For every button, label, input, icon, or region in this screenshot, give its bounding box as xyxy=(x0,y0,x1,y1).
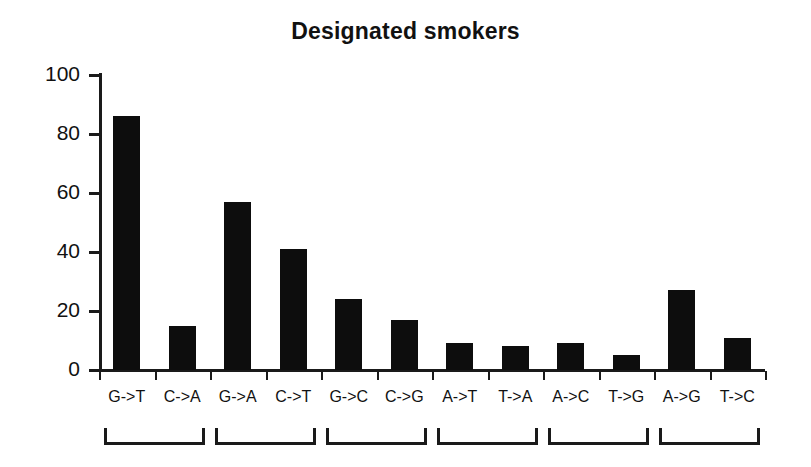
group-bracket xyxy=(215,428,316,445)
y-axis-tick-label: 80 xyxy=(10,121,80,145)
x-axis-label: T->C xyxy=(710,388,766,406)
bars-layer xyxy=(99,75,765,370)
y-axis-tick-label: 40 xyxy=(10,239,80,263)
x-axis-tick xyxy=(765,371,767,380)
x-axis-label: C->G xyxy=(377,388,433,406)
x-axis-tick xyxy=(543,371,545,380)
x-axis-label: T->A xyxy=(488,388,544,406)
y-axis-tick-label: 60 xyxy=(10,180,80,204)
y-axis-tick-label: 0 xyxy=(10,357,80,381)
group-bracket xyxy=(548,428,649,445)
x-axis-tick xyxy=(488,371,490,380)
y-axis-tick-label: 100 xyxy=(10,62,80,86)
group-bracket xyxy=(437,428,538,445)
x-axis-label: A->T xyxy=(432,388,488,406)
bar xyxy=(224,202,251,370)
x-axis-label: C->T xyxy=(266,388,322,406)
x-axis-tick xyxy=(99,371,101,380)
bar xyxy=(724,338,751,370)
bar xyxy=(613,355,640,370)
x-axis-tick xyxy=(710,371,712,380)
x-axis-label: A->G xyxy=(654,388,710,406)
bar xyxy=(335,299,362,370)
y-axis-tick-label: 20 xyxy=(10,298,80,322)
x-axis-label: T->G xyxy=(599,388,655,406)
bar-chart-figure: Designated smokers 020406080100 G->TC->A… xyxy=(0,0,811,467)
x-axis-label: A->C xyxy=(543,388,599,406)
group-bracket xyxy=(326,428,427,445)
x-axis-tick xyxy=(266,371,268,380)
x-axis-tick xyxy=(377,371,379,380)
chart-title: Designated smokers xyxy=(0,18,811,45)
x-axis-label: C->A xyxy=(155,388,211,406)
bar xyxy=(557,343,584,370)
x-axis-label: G->A xyxy=(210,388,266,406)
x-axis-tick xyxy=(155,371,157,380)
x-axis-tick xyxy=(654,371,656,380)
x-axis-tick xyxy=(432,371,434,380)
bar xyxy=(668,290,695,370)
x-axis-label: G->C xyxy=(321,388,377,406)
x-axis-tick xyxy=(321,371,323,380)
x-axis-label: G->T xyxy=(99,388,155,406)
bar xyxy=(446,343,473,370)
x-axis-tick xyxy=(599,371,601,380)
bar xyxy=(391,320,418,370)
group-bracket xyxy=(104,428,205,445)
bar xyxy=(280,249,307,370)
bar xyxy=(169,326,196,370)
bar xyxy=(502,346,529,370)
group-bracket xyxy=(659,428,760,445)
bar xyxy=(113,116,140,370)
x-axis-tick xyxy=(210,371,212,380)
